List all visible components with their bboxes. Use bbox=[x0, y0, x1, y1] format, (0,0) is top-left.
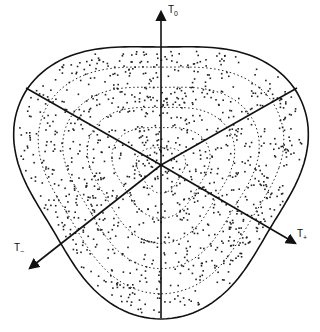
t-minus-label: T− bbox=[14, 242, 24, 255]
dalitz-diagram bbox=[0, 0, 320, 332]
right-axis-line bbox=[161, 88, 297, 165]
left-axis-line bbox=[26, 88, 161, 165]
t-plus-label: T+ bbox=[297, 228, 307, 241]
t0-label: T0 bbox=[168, 4, 178, 17]
